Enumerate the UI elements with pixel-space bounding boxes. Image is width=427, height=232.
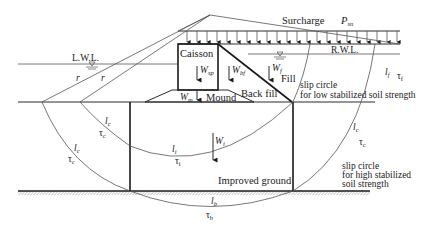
lwl-water-symbol (86, 62, 98, 69)
w-bf-label: Wbf (232, 65, 246, 76)
slip-low-line1: slip circle (300, 80, 337, 90)
tau-c-left-label: τc (68, 154, 75, 165)
slip-high-line3: soil strength (342, 179, 389, 189)
w-m-label: Wm (180, 92, 193, 103)
slip-circle-low-strength (80, 44, 310, 156)
caisson-label: Caisson (180, 48, 214, 59)
w-sp-label: Wsp (200, 65, 214, 76)
r-label-outer: r (76, 73, 80, 83)
rwl-water-symbol (274, 52, 286, 59)
tau-c-right-label: τc (359, 137, 366, 148)
lf-label: lf (385, 67, 391, 78)
w-i-label: Wi (215, 136, 225, 147)
surcharge-label: Surcharge (282, 15, 325, 26)
rwl-label: R.W.L. (331, 45, 358, 55)
surcharge-arrows (187, 31, 397, 42)
fill-label: Fill (281, 73, 296, 84)
slip-low-line2: for low stabilized soil strength (300, 90, 416, 100)
lb-label: lb (211, 196, 218, 207)
tau-c-inner-label: τc (99, 128, 106, 139)
li-label: li (172, 144, 177, 155)
lwl-label: L.W.L. (72, 53, 99, 63)
lc-right-label: lc (353, 122, 359, 133)
lc-inner-label: lc (105, 116, 111, 127)
w-f-label: Wf (272, 63, 283, 74)
backfill-label: Back fill (241, 88, 278, 99)
mound-label: Mound (206, 92, 237, 103)
mound (145, 90, 254, 102)
lc-left-label: lc (74, 143, 80, 154)
tau-b-label: τb (206, 210, 213, 221)
tau-f-label: τf (397, 71, 404, 82)
improved-ground-label: Improved ground (218, 175, 292, 186)
r-label-inner: r (101, 73, 105, 83)
slip-circle-diagram: Surcharge Psn L.W.L. R.W.L. Caisson Moun… (0, 0, 427, 232)
tau-i-label: τi (175, 156, 181, 167)
surcharge-symbol: Psn (340, 15, 353, 27)
